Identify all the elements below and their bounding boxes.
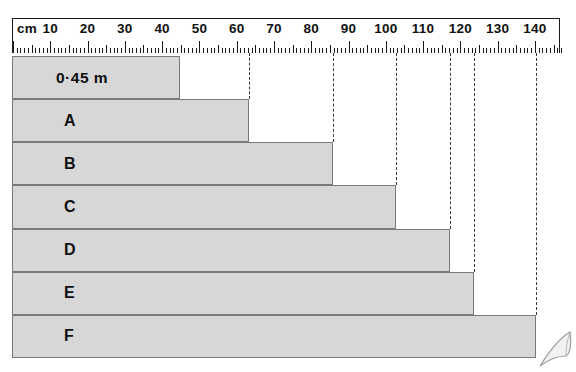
ruler-tick-minor-69 [270,48,271,53]
ruler-tick-minor-67 [263,48,264,53]
ruler-tick-minor-124 [475,48,476,53]
ruler-tick-minor-6 [35,48,36,53]
ruler-tick-minor-12 [58,48,59,53]
bar-row: D [12,229,560,272]
ruler-tick-minor-129 [494,48,495,53]
ruler-tick-mid-105 [404,45,405,53]
ruler-tick-minor-93 [360,48,361,53]
ruler-tick-mid-85 [330,45,331,53]
ruler-tick-minor-142 [542,48,543,53]
ruler-tick-minor-84 [326,48,327,53]
ruler-tick-minor-29 [121,48,122,53]
ruler-tick-minor-2 [20,48,21,53]
ruler-tick-minor-138 [527,48,528,53]
ruler-label-90: 90 [341,21,356,36]
ruler-tick-major-40 [162,41,163,53]
ruler-tick-minor-103 [397,48,398,53]
ruler-tick-major-130 [498,41,499,53]
ruler-tick-minor-64 [252,48,253,53]
ruler-tick-minor-18 [80,48,81,53]
ruler-tick-minor-108 [416,48,417,53]
ruler-label-100: 100 [374,21,397,36]
ruler-tick-minor-131 [501,48,502,53]
ruler-tick-minor-23 [99,48,100,53]
ruler-label-110: 110 [412,21,434,36]
bar-f [12,315,536,358]
ruler-tick-minor-24 [102,48,103,53]
ruler-tick-minor-13 [61,48,62,53]
ruler-tick-minor-98 [378,48,379,53]
ruler-tick-major-140 [535,41,536,53]
ruler-tick-minor-41 [166,48,167,53]
ruler-tick-minor-62 [244,48,245,53]
ruler-tick-minor-88 [341,48,342,53]
ruler-tick-minor-146 [557,48,558,53]
ruler-tick-minor-21 [91,48,92,53]
ruler-tick-major-10 [50,41,51,53]
ruler-tick-minor-77 [300,48,301,53]
ruler-tick-minor-121 [464,48,465,53]
ruler-tick-mid-95 [367,45,368,53]
ruler-tick-mid-15 [69,45,70,53]
ruler-tick-minor-16 [73,48,74,53]
ruler-label-30: 30 [117,21,132,36]
ruler-tick-major-0 [13,41,14,53]
ruler-tick-minor-1 [17,48,18,53]
ruler-tick-major-50 [199,41,200,53]
ruler-tick-minor-97 [375,48,376,53]
ruler-tick-minor-59 [233,48,234,53]
ruler-tick-minor-19 [84,48,85,53]
ruler-tick-minor-31 [129,48,130,53]
ruler-tick-band [13,40,559,53]
ruler-tick-minor-4 [28,48,29,53]
ruler-tick-minor-111 [427,48,428,53]
ruler-tick-minor-118 [453,48,454,53]
ruler-tick-minor-14 [65,48,66,53]
ruler-tick-minor-109 [419,48,420,53]
ruler-tick-major-70 [274,41,275,53]
ruler-tick-major-90 [349,41,350,53]
ruler-label-120: 120 [449,21,472,36]
ruler-tick-minor-32 [132,48,133,53]
ruler-tick-minor-81 [315,48,316,53]
ruler-tick-major-60 [237,41,238,53]
ruler-tick-minor-82 [319,48,320,53]
ruler-tick-minor-91 [352,48,353,53]
ruler: cm 102030405060708090100110120130140 [12,18,560,53]
ruler-label-10: 10 [43,21,58,36]
ruler-tick-minor-133 [509,48,510,53]
ruler-tick-minor-47 [188,48,189,53]
ruler-label-70: 70 [266,21,281,36]
ruler-tick-mid-5 [32,45,33,53]
ruler-tick-minor-43 [173,48,174,53]
ruler-tick-minor-51 [203,48,204,53]
ruler-tick-minor-37 [151,48,152,53]
bar-a [12,99,249,142]
ruler-tick-minor-74 [289,48,290,53]
ruler-tick-minor-147 [561,48,562,53]
ruler-tick-minor-122 [468,48,469,53]
ruler-tick-minor-68 [266,48,267,53]
ruler-tick-minor-116 [445,48,446,53]
ruler-tick-minor-107 [412,48,413,53]
ruler-tick-minor-8 [43,48,44,53]
ruler-tick-minor-126 [483,48,484,53]
ruler-tick-minor-132 [505,48,506,53]
ruler-tick-mid-25 [106,45,107,53]
ruler-tick-minor-39 [158,48,159,53]
ruler-tick-major-80 [311,41,312,53]
worksheet-diagram: cm 102030405060708090100110120130140 0·4… [0,0,576,372]
ruler-tick-minor-76 [296,48,297,53]
ruler-tick-minor-102 [393,48,394,53]
ruler-tick-minor-36 [147,48,148,53]
ruler-tick-major-30 [125,41,126,53]
ruler-tick-minor-86 [334,48,335,53]
ruler-tick-minor-38 [155,48,156,53]
bar-row: E [12,272,560,315]
ruler-tick-minor-114 [438,48,439,53]
ruler-tick-minor-44 [177,48,178,53]
ruler-tick-minor-101 [390,48,391,53]
ruler-tick-minor-134 [513,48,514,53]
bar-row: 0·45 m [12,56,560,99]
ruler-label-50: 50 [192,21,207,36]
